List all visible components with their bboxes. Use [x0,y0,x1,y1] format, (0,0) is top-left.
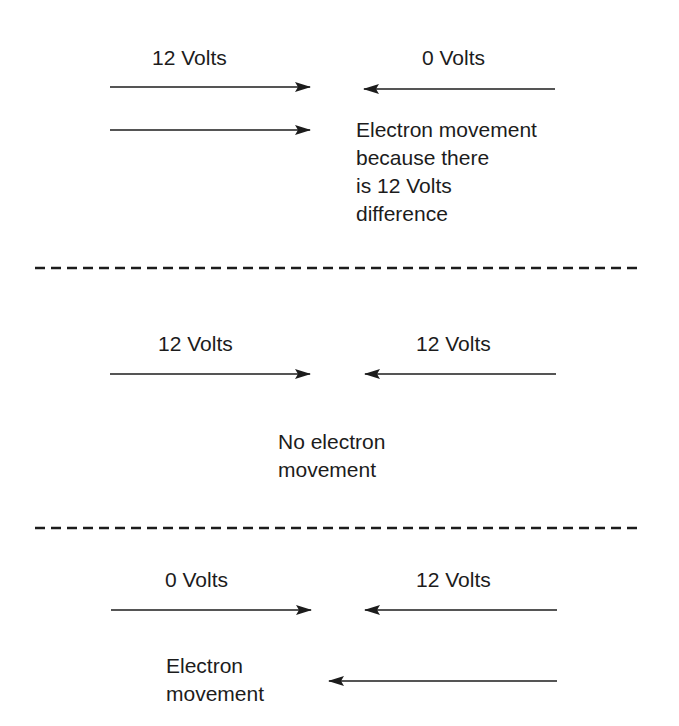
caption-line: No electron [278,428,385,456]
caption-line: is 12 Volts [356,172,537,200]
section-1-caption: Electron movement because there is 12 Vo… [356,116,537,228]
section-3-left-voltage-label: 0 Volts [165,566,228,593]
caption-line: difference [356,200,537,228]
caption-line: Electron [166,652,264,680]
section-2-right-voltage-label: 12 Volts [416,330,491,357]
caption-line: because there [356,144,537,172]
caption-line: Electron movement [356,116,537,144]
caption-line: movement [278,456,385,484]
section-2-caption: No electron movement [278,428,385,484]
caption-line: movement [166,680,264,708]
section-1-left-voltage-label: 12 Volts [152,44,227,71]
diagram-canvas [0,0,679,726]
section-3-caption: Electron movement [166,652,264,708]
section-1-right-voltage-label: 0 Volts [422,44,485,71]
section-3-right-voltage-label: 12 Volts [416,566,491,593]
section-2-left-voltage-label: 12 Volts [158,330,233,357]
